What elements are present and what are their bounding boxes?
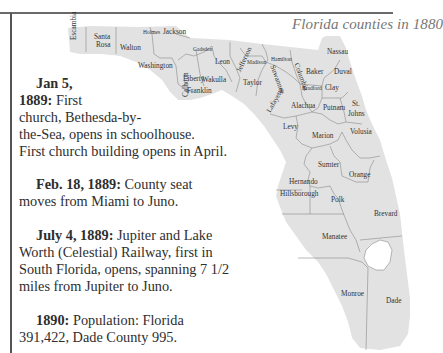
timeline-entry-4-line1: 1890: Population: Florida [36, 312, 184, 329]
county-label: Alachua [291, 102, 315, 110]
timeline-entry-2-line2: moves from Miami to Juno. [19, 193, 178, 210]
timeline-entry-1-line1: 1889: First [19, 92, 82, 109]
timeline-entry-3-line3: South Florida, opens, spanning 7 1/2 [19, 261, 229, 278]
county-label: Taylor [243, 79, 262, 87]
timeline-entry-1-line2: church, Bethesda-by- [19, 109, 141, 126]
timeline-date: Feb. 18, 1889: [36, 176, 121, 192]
county-label: Manatee [322, 233, 347, 241]
county-label: Volusia [350, 128, 372, 136]
timeline-date: 1889: [19, 92, 52, 108]
county-label: Walton [120, 44, 141, 52]
timeline-entry-2-line1: Feb. 18, 1889: County seat [36, 176, 192, 193]
timeline-entry-1-date1: Jan 5, [36, 75, 73, 92]
county-label: Madison [247, 58, 266, 66]
county-label: Putnam [323, 104, 345, 112]
county-label: Hernando [289, 178, 318, 186]
county-label: Orange [349, 171, 370, 179]
county-label: Franklin [187, 87, 212, 95]
county-label: Rosa [96, 41, 111, 49]
county-label: Dade [386, 297, 401, 305]
county-label: Wakulla [202, 76, 226, 84]
county-label: Hamilton [271, 55, 292, 63]
county-label: Jackson [163, 28, 186, 36]
county-label: Sumter [318, 161, 339, 169]
county-label: Leon [215, 58, 230, 66]
county-label: Marion [312, 132, 333, 140]
timeline-entry-3-line2: Worth (Celestial) Railway, first in [19, 244, 213, 261]
map-title: Florida counties in 1880 [292, 16, 443, 33]
county-label: St. [352, 100, 360, 108]
county-label: Brevard [374, 210, 398, 218]
county-label: Clay [325, 84, 339, 92]
county-label: Washington [138, 62, 173, 70]
timeline-date: July 4, 1889: [36, 227, 113, 243]
timeline-date: 1890: [36, 312, 69, 328]
county-label: Holmes [143, 28, 160, 36]
county-label: Duval [334, 68, 352, 76]
timeline-entry-1-line4: First church building opens in April. [19, 143, 227, 160]
county-label: Gadsden [193, 45, 212, 53]
county-label: Nassau [327, 48, 348, 56]
county-label: Monroe [341, 290, 364, 298]
county-label: Johns [348, 110, 365, 118]
timeline-entry-3-line4: miles from Jupiter to Juno. [19, 278, 173, 295]
county-label: Escambia [70, 12, 78, 40]
county-label: Levy [283, 123, 298, 131]
timeline-entry-3-line1: July 4, 1889: Jupiter and Lake [36, 227, 212, 244]
timeline-entry-1-line3: the-Sea, opens in schoolhouse. [19, 126, 195, 143]
county-label: Baker [306, 68, 323, 76]
county-label: Hillsborough [280, 190, 319, 198]
county-label: Polk [331, 196, 344, 204]
county-label: Bradford [302, 84, 322, 92]
timeline-entry-4-line2: 391,422, Dade County 995. [19, 329, 177, 346]
